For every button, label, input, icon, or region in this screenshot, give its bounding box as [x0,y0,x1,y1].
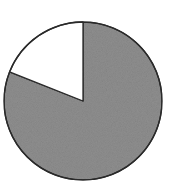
pie-chart [0,0,172,185]
pie-slices [4,22,162,180]
